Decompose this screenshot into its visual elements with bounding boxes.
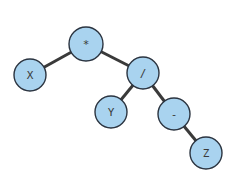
expression-tree-diagram: *X/Y-Z (0, 0, 233, 176)
tree-node-z: Z (190, 137, 222, 169)
node-label: X (27, 69, 34, 82)
node-label: * (83, 38, 90, 51)
node-label: / (140, 67, 147, 80)
node-label: - (171, 108, 178, 121)
tree-node-minus: - (158, 98, 190, 130)
tree-node-div: / (127, 57, 159, 89)
node-label: Z (203, 147, 210, 160)
tree-node-x: X (14, 59, 46, 91)
node-label: Y (108, 106, 115, 119)
tree-node-times: * (69, 27, 103, 61)
tree-node-y: Y (95, 96, 127, 128)
